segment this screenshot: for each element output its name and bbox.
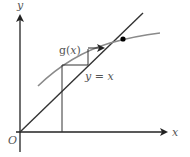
y-axis-label: y bbox=[16, 0, 24, 12]
fixed-point bbox=[120, 36, 125, 41]
identity-line-label: y = x bbox=[84, 70, 114, 83]
x-axis-label: x bbox=[172, 126, 179, 139]
cobweb-diagram: y x O g(x) y = x bbox=[0, 0, 190, 157]
line-label-x: x bbox=[107, 70, 114, 83]
identity-line bbox=[20, 13, 143, 132]
origin-label: O bbox=[8, 134, 17, 147]
line-label-eq: = bbox=[91, 70, 107, 83]
g-label-prefix: g( bbox=[59, 44, 70, 57]
g-curve-label: g(x) bbox=[59, 44, 81, 57]
g-label-suffix: ) bbox=[77, 44, 81, 57]
